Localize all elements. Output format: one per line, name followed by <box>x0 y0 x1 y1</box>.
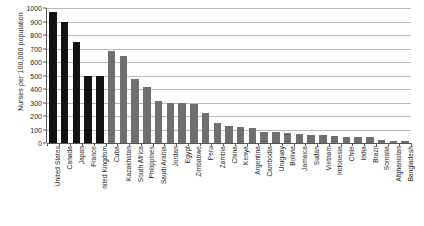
bar <box>319 135 327 143</box>
x-category-label: Brazil <box>372 146 379 163</box>
y-tick-label: 900 <box>30 18 42 25</box>
bar <box>61 22 69 143</box>
x-category-label: Zambia <box>219 146 226 168</box>
x-category-label: Japan <box>78 146 85 164</box>
y-tick-label: 100 <box>30 126 42 133</box>
x-category-label: Canada <box>66 146 73 169</box>
y-tick-label: 1000 <box>26 5 42 12</box>
bar <box>73 42 81 143</box>
x-category-label: Afghanistan <box>395 146 402 181</box>
y-tick-label: 500 <box>30 72 42 79</box>
bar <box>202 113 210 143</box>
x-category-label: India <box>360 146 367 161</box>
y-tick-label: 800 <box>30 32 42 39</box>
y-tick-label: 600 <box>30 59 42 66</box>
x-category-label: Sudan <box>313 146 320 165</box>
bar <box>96 76 104 143</box>
bar <box>120 56 128 143</box>
x-category-label: Indonesia <box>336 146 343 175</box>
x-axis-category-labels: United StatesCanadaJapanFrancenited King… <box>46 146 410 224</box>
x-category-label: Bolivia <box>289 146 296 166</box>
bar <box>284 133 292 143</box>
bar <box>331 136 339 143</box>
x-category-label: Jordan <box>172 146 179 166</box>
bar <box>49 12 57 143</box>
bar <box>108 51 116 143</box>
bar <box>225 126 233 143</box>
bar <box>260 132 268 143</box>
bar <box>307 135 315 144</box>
x-category-label: France <box>90 146 97 167</box>
x-category-label: Peru <box>207 146 214 160</box>
x-category-label: Vietnam <box>325 146 332 170</box>
x-category-label: Chile <box>348 146 355 161</box>
x-category-label: Jamaica <box>301 146 308 171</box>
x-category-label: China <box>231 146 238 163</box>
bar <box>167 103 175 144</box>
bar <box>237 127 245 143</box>
x-axis-line <box>47 143 411 144</box>
x-category-label: Cambodia <box>266 146 273 176</box>
bar-series <box>47 8 411 143</box>
bar <box>178 103 186 143</box>
x-category-label: United States <box>54 146 61 186</box>
y-tick-label: 300 <box>30 99 42 106</box>
x-category-label: Kenya <box>242 146 249 165</box>
bar <box>249 128 257 143</box>
x-category-label: Cuba <box>113 146 120 162</box>
bar <box>131 79 139 143</box>
bar <box>296 134 304 143</box>
bar <box>272 132 280 143</box>
y-tick-label: 200 <box>30 113 42 120</box>
x-category-label: Zimbabwe <box>195 146 202 177</box>
x-category-label: Egypt <box>184 146 191 163</box>
x-category-label: Kazakhstan <box>125 146 132 181</box>
y-tick-label: 700 <box>30 45 42 52</box>
x-category-label: South Africa <box>137 146 144 182</box>
bar <box>214 123 222 143</box>
x-category-label: Uruguay <box>278 146 285 171</box>
bar <box>84 76 92 143</box>
bar <box>143 87 151 143</box>
bar <box>155 101 163 143</box>
bar <box>190 104 198 143</box>
nurses-per-population-bar-chart: Nurses per 100,000 population 1000900800… <box>0 0 424 226</box>
plot-area <box>46 8 411 143</box>
x-category-label: Saudi Arabia <box>160 146 167 184</box>
y-tick-label: 0 <box>38 140 42 147</box>
y-axis-tick-labels: 10009008007006005004003002001000 <box>12 8 46 143</box>
y-tick-label: 400 <box>30 86 42 93</box>
x-category-label: Bangladesh <box>407 146 414 181</box>
x-category-label: Somalia <box>383 146 390 170</box>
x-category-label: nited Kingdom <box>101 146 108 189</box>
x-category-label: Argentina <box>254 146 261 175</box>
x-category-label: Philippines <box>148 146 155 179</box>
